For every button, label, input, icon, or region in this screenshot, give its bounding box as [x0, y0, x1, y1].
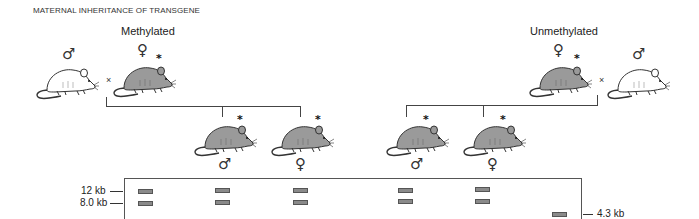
- unmethylated-label: Unmethylated: [530, 25, 598, 37]
- gel-band-lane6-4-3kb: [552, 212, 567, 217]
- male-symbol-icon: ♂: [62, 47, 75, 62]
- pedigree-line: [300, 106, 301, 117]
- gel-band-lane1-8kb: [138, 201, 153, 206]
- methylated-label: Methylated: [121, 25, 175, 37]
- offspring-male-mouse-icon: [193, 121, 257, 157]
- pedigree-line: [406, 105, 407, 117]
- gel-band-lane1-12kb: [138, 189, 153, 194]
- marker-tick: [110, 191, 123, 192]
- size-marker-12kb: 12 kb: [81, 185, 105, 196]
- male-symbol-icon: ♂: [632, 47, 645, 62]
- female-symbol-icon: ♀: [137, 43, 148, 58]
- white-male-mouse-icon: [606, 64, 670, 100]
- female-symbol-icon: ♀: [553, 43, 564, 58]
- pedigree-line: [222, 106, 223, 117]
- marker-tick: [110, 203, 123, 204]
- pedigree-line: [483, 105, 484, 117]
- female-symbol-icon: ♀: [295, 157, 306, 172]
- offspring-female-mouse-icon: [270, 121, 334, 157]
- male-symbol-icon: ♂: [218, 157, 231, 172]
- pedigree-line: [106, 106, 301, 107]
- size-marker-4-3kb: 4.3 kb: [597, 208, 624, 219]
- gel-band-lane2-12kb: [215, 188, 230, 193]
- figure-title: MATERNAL INHERITANCE OF TRANSGENE: [33, 6, 200, 15]
- gray-female-mouse-icon: [528, 62, 592, 98]
- gel-band-lane2-8kb: [215, 200, 230, 205]
- cross-symbol: ×: [106, 75, 111, 85]
- offspring-male-mouse-icon: [385, 121, 449, 157]
- offspring-female-mouse-icon: [462, 121, 526, 157]
- gel-band-lane5-12kb: [475, 187, 490, 192]
- size-marker-8kb: 8.0 kb: [80, 197, 107, 208]
- gray-female-mouse-icon: [112, 62, 176, 98]
- gel-band-lane4-8kb: [398, 199, 413, 204]
- gel-band-lane5-8kb: [475, 199, 490, 204]
- gel-band-lane4-12kb: [398, 188, 413, 193]
- marker-tick: [583, 214, 593, 215]
- white-male-mouse-icon: [35, 64, 99, 100]
- pedigree-line: [406, 105, 598, 106]
- southern-blot-gel: [124, 178, 582, 219]
- gel-band-lane3-8kb: [293, 200, 308, 205]
- cross-symbol: ×: [599, 75, 604, 85]
- male-symbol-icon: ♂: [410, 157, 423, 172]
- female-symbol-icon: ♀: [487, 157, 498, 172]
- gel-band-lane3-12kb: [293, 188, 308, 193]
